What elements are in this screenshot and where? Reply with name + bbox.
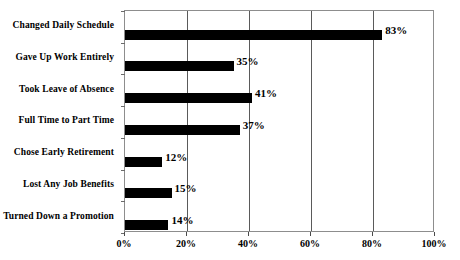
y-axis-tick [121,201,125,202]
x-axis-tick [310,232,311,236]
plot-area: 83%35%41%37%12%15%14% [124,10,434,232]
gridline [373,11,374,231]
x-axis-tick [372,232,373,236]
bar-value-label: 41% [255,88,277,99]
horizontal-bar-chart: Changed Daily ScheduleGave Up Work Entir… [0,0,460,260]
x-axis-tick [248,232,249,236]
x-axis-tick-label: 20% [176,238,196,249]
category-label-text: Full Time to Part Time [19,115,114,126]
bar [125,125,240,135]
category-label: Full Time to Part Time [0,105,114,137]
bar-value-label: 35% [237,56,259,67]
x-axis-tick-label: 40% [238,238,258,249]
bar [125,93,252,103]
category-label: Chose Early Retirement [0,137,114,169]
category-label: Turned Down a Promotion [0,200,114,232]
bar [125,220,168,230]
category-label: Took Leave of Absence [0,73,114,105]
x-axis-tick-label: 60% [300,238,320,249]
bar [125,188,172,198]
x-axis-tick [186,232,187,236]
bar-value-label: 37% [243,120,265,131]
y-axis-tick [121,170,125,171]
category-label-text: Changed Daily Schedule [13,20,114,31]
x-axis-tick-label: 100% [422,238,447,249]
bar-value-label: 15% [175,183,197,194]
y-axis-tick [121,106,125,107]
x-axis-tick [434,232,435,236]
x-axis-tick-label: 0% [117,238,132,249]
y-axis-tick [121,43,125,44]
bar [125,61,234,71]
category-label-text: Turned Down a Promotion [3,211,114,222]
category-label: Changed Daily Schedule [0,10,114,42]
category-label-text: Gave Up Work Entirely [15,52,114,63]
bar-value-label: 83% [385,25,407,36]
bar [125,30,382,40]
category-axis-labels: Changed Daily ScheduleGave Up Work Entir… [0,10,118,232]
x-axis-tick [124,232,125,236]
category-label-text: Took Leave of Absence [19,84,114,95]
category-label-text: Chose Early Retirement [14,147,114,158]
category-label-text: Lost Any Job Benefits [23,179,114,190]
bar-value-label: 12% [165,152,187,163]
bar-value-label: 14% [171,215,193,226]
y-axis-tick [121,138,125,139]
category-label: Lost Any Job Benefits [0,169,114,201]
y-axis-tick [121,74,125,75]
gridline [311,11,312,231]
category-label: Gave Up Work Entirely [0,42,114,74]
y-axis-tick [121,11,125,12]
x-axis: 0%20%40%60%80%100% [124,232,434,260]
x-axis-tick-label: 80% [362,238,382,249]
bar [125,157,162,167]
gridline [187,11,188,231]
